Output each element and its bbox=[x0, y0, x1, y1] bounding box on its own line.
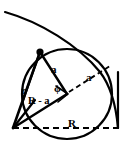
label-radius-a-right: a bbox=[86, 72, 92, 83]
label-R: R bbox=[68, 118, 76, 129]
label-chord-r: r bbox=[21, 85, 26, 96]
label-angle-phi: ϕ bbox=[54, 83, 61, 94]
label-radius-a-upper: a bbox=[51, 64, 57, 75]
tangent-point-dot bbox=[36, 48, 43, 55]
figure-canvas bbox=[0, 0, 130, 150]
label-R-minus-a: R - a bbox=[28, 96, 50, 107]
outer-arc-radius-R bbox=[5, 12, 118, 128]
geometry-figure: a a r ϕ R - a R bbox=[0, 0, 130, 150]
